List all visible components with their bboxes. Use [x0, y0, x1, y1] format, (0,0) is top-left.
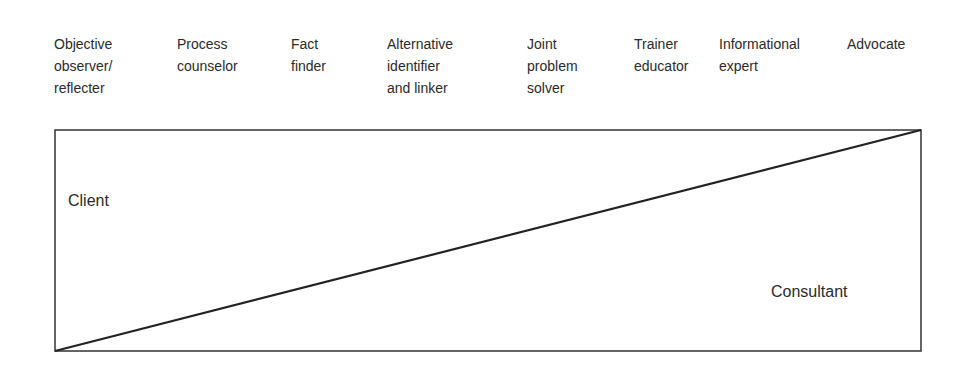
client-region-label: Client: [68, 192, 109, 210]
diagonal-divider: [55, 130, 921, 351]
client-consultant-diagram: [0, 0, 969, 373]
consultant-region-label: Consultant: [771, 283, 848, 301]
